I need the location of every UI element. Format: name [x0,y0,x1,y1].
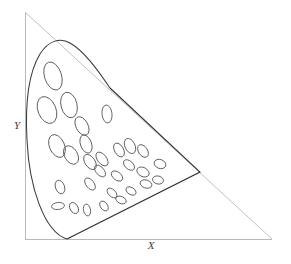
chromaticity-figure: X Y [0,0,291,264]
discrimination-ellipse [135,165,151,179]
discrimination-ellipse [82,203,91,216]
discrimination-ellipse [83,176,98,192]
discrimination-ellipse [124,185,137,197]
discrimination-ellipse [40,60,65,93]
discrimination-ellipse [152,175,165,185]
axes-group [25,12,272,239]
discrimination-ellipse [121,158,136,173]
discrimination-ellipse [72,114,92,137]
discrimination-ellipse [101,105,113,124]
triangle-hypotenuse [25,12,272,239]
discrimination-ellipse [78,133,95,155]
discrimination-ellipse [51,202,65,210]
discrimination-ellipse [109,169,124,183]
discrimination-ellipses-group [33,60,167,217]
discrimination-ellipse [60,143,81,167]
discrimination-ellipse [58,90,80,119]
discrimination-ellipse [53,179,66,195]
discrimination-ellipse [153,158,167,171]
x-axis-label: X [147,239,156,251]
chromaticity-diagram-canvas: X Y [0,0,291,264]
discrimination-ellipse [33,94,60,127]
discrimination-ellipse [68,201,81,215]
discrimination-ellipse [139,178,153,189]
discrimination-ellipse [135,143,150,160]
discrimination-ellipse [45,132,68,160]
discrimination-ellipse [98,199,110,212]
discrimination-ellipse [105,186,118,199]
spectral-locus-curve [27,40,110,239]
y-axis-label: Y [14,119,22,131]
